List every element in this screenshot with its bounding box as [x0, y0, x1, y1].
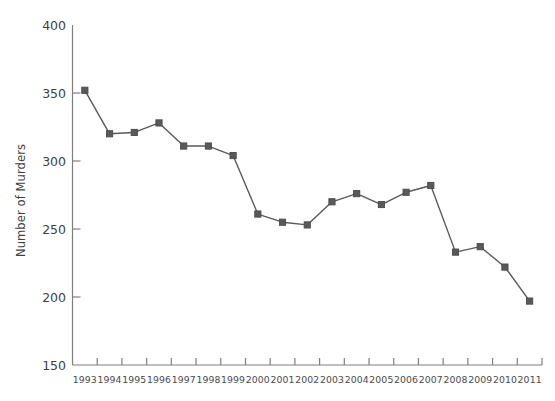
data-series-line: [85, 90, 530, 301]
data-point-marker: [181, 143, 187, 149]
x-tick-label: 1997: [172, 374, 196, 385]
x-tick-label: 2006: [394, 374, 418, 385]
data-point-marker: [378, 201, 384, 207]
plot-area: [0, 0, 555, 401]
data-point-marker: [329, 199, 335, 205]
data-point-marker: [304, 222, 310, 228]
data-point-marker: [230, 152, 236, 158]
x-tick-label: 2004: [345, 374, 369, 385]
data-point-marker: [131, 129, 137, 135]
line-chart: Number of Murders 150200250300350400 199…: [0, 0, 555, 401]
x-tick-label: 2010: [493, 374, 517, 385]
data-point-marker: [354, 191, 360, 197]
x-tick-label: 1993: [73, 374, 97, 385]
x-tick-label: 1994: [98, 374, 122, 385]
data-point-marker: [452, 249, 458, 255]
x-tick-label: 2003: [320, 374, 344, 385]
x-tick-label: 2001: [271, 374, 295, 385]
data-point-marker: [156, 120, 162, 126]
data-point-marker: [477, 244, 483, 250]
y-axis-tick-marks: [73, 93, 81, 297]
x-tick-label: 2007: [419, 374, 443, 385]
data-point-markers: [82, 87, 533, 304]
x-tick-label: 1995: [122, 374, 146, 385]
x-tick-label: 2008: [443, 374, 467, 385]
data-point-marker: [428, 182, 434, 188]
x-tick-label: 2011: [518, 374, 542, 385]
x-axis-tick-marks: [97, 358, 542, 365]
data-point-marker: [255, 211, 261, 217]
data-point-marker: [403, 189, 409, 195]
x-tick-label: 2009: [468, 374, 492, 385]
x-tick-label: 2005: [369, 374, 393, 385]
x-tick-label: 2000: [246, 374, 270, 385]
x-tick-label: 1999: [221, 374, 245, 385]
data-point-marker: [82, 87, 88, 93]
data-point-marker: [279, 219, 285, 225]
x-tick-label: 2002: [295, 374, 319, 385]
x-tick-label: 1996: [147, 374, 171, 385]
data-point-marker: [502, 264, 508, 270]
data-point-marker: [106, 131, 112, 137]
axis-lines: [73, 25, 543, 365]
data-point-marker: [527, 298, 533, 304]
x-tick-label: 1998: [196, 374, 220, 385]
data-point-marker: [205, 143, 211, 149]
